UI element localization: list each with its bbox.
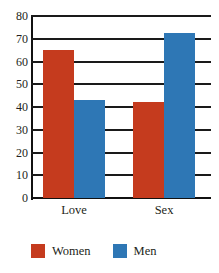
y-axis-tick-label: 50 (2, 78, 28, 90)
x-axis-tick-labels: LoveSex (31, 203, 211, 223)
y-axis-tick-label: 80 (2, 10, 28, 22)
y-axis-tick-label: 0 (2, 192, 28, 204)
bar-women-sex (133, 102, 164, 198)
y-axis-tick-label: 20 (2, 147, 28, 159)
bar-men-love (74, 100, 105, 198)
legend-label: Women (52, 245, 91, 258)
y-axis-tick-label: 10 (2, 169, 28, 181)
bar-chart: 80706050403020100 LoveSex WomenMen (0, 0, 219, 273)
bar-men-sex (164, 33, 195, 198)
y-axis-tick-label: 70 (2, 33, 28, 45)
legend-item-women: Women (31, 244, 91, 258)
plot-area (31, 16, 211, 198)
x-axis-tick-label: Sex (155, 203, 174, 218)
legend-label: Men (134, 245, 157, 258)
bar-women-love (43, 50, 74, 198)
y-axis-tick-label: 40 (2, 101, 28, 113)
legend-item-men: Men (113, 244, 157, 258)
x-axis-tick-label: Love (61, 203, 87, 218)
y-axis-tick-label: 60 (2, 56, 28, 68)
y-axis-tick-label: 30 (2, 124, 28, 136)
gridline (31, 15, 211, 17)
y-axis-tick-labels: 80706050403020100 (0, 16, 28, 198)
chart-legend: WomenMen (31, 244, 179, 258)
legend-swatch-icon (113, 244, 127, 258)
legend-swatch-icon (31, 244, 45, 258)
